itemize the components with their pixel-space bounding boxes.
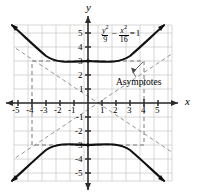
y-tick-label-1: 1 <box>79 85 84 94</box>
y-tick-label--4: -4 <box>75 155 83 164</box>
hyperbola-equation-label: y2 9 − x2 16 = 1 <box>101 24 140 44</box>
equation-x-fraction: x2 16 <box>119 24 129 44</box>
y-tick-label-3: 3 <box>78 57 83 66</box>
equation-minus-operator: − <box>111 29 118 38</box>
y-tick-label--2: -2 <box>75 127 83 136</box>
equation-y-numerator-exponent: 2 <box>106 24 109 30</box>
x-tick-label-4: 4 <box>141 106 146 115</box>
x-tick-label--2: -2 <box>54 106 62 115</box>
x-tick-label-2: 2 <box>113 106 118 115</box>
x-tick-label-1: 1 <box>100 106 105 115</box>
x-tick-label-3: 3 <box>127 106 132 115</box>
equation-equals-sign: = <box>130 29 135 38</box>
hyperbola-graph-figure: y x -5 -4 -3 -2 -1 1 2 3 4 5 5 4 3 2 1 -… <box>0 0 198 194</box>
y-tick-label--5: -5 <box>75 169 83 178</box>
vertex-lower-point <box>86 143 90 147</box>
y-tick-label-4: 4 <box>78 43 83 52</box>
equation-right-hand-side: 1 <box>136 29 141 38</box>
x-tick-label--4: -4 <box>26 106 34 115</box>
y-tick-label--1: -1 <box>76 113 84 122</box>
equation-y-denominator: 9 <box>102 35 108 44</box>
y-tick-label-5: 5 <box>78 29 83 38</box>
vertex-upper-point <box>86 59 90 63</box>
x-tick-label--3: -3 <box>40 106 48 115</box>
y-axis-label: y <box>86 2 91 13</box>
y-tick-label--3: -3 <box>75 141 83 150</box>
x-axis-label: x <box>185 96 190 107</box>
x-tick-label--5: -5 <box>12 106 20 115</box>
x-tick-label--1: -1 <box>68 106 76 115</box>
equation-x-denominator: 16 <box>119 35 129 44</box>
equation-x-numerator-exponent: 2 <box>124 24 127 30</box>
asymptotes-annotation-label: Asymptotes <box>116 78 161 88</box>
x-tick-label-5: 5 <box>155 106 160 115</box>
equation-y-fraction: y2 9 <box>101 24 110 44</box>
y-tick-label-2: 2 <box>78 71 83 80</box>
graph-canvas <box>0 0 198 194</box>
